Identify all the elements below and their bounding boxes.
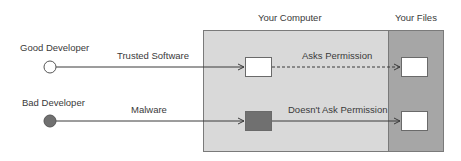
trusted-software-box <box>245 57 272 77</box>
malware-label: Malware <box>131 104 167 115</box>
malware-box <box>245 111 272 131</box>
bad-developer-node <box>44 115 56 127</box>
file-box-1 <box>401 57 428 77</box>
connector-lines <box>0 0 461 161</box>
file-box-2 <box>401 111 428 131</box>
doesnt-ask-permission-label: Doesn't Ask Permission <box>288 104 388 115</box>
bad-developer-label: Bad Developer <box>22 97 85 108</box>
asks-permission-label: Asks Permission <box>302 50 372 61</box>
good-developer-label: Good Developer <box>20 42 89 53</box>
good-developer-node <box>44 61 56 73</box>
trusted-software-label: Trusted Software <box>117 50 189 61</box>
